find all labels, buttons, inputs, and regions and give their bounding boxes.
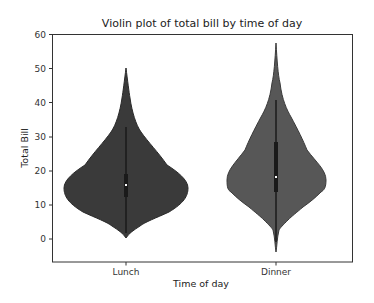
y-tick-label: 40 xyxy=(35,98,47,108)
y-tick-label: 10 xyxy=(35,200,47,210)
x-tick-label-dinner: Dinner xyxy=(261,267,291,277)
lunch-median xyxy=(125,184,127,186)
y-axis: 60 50 40 30 20 10 0 xyxy=(35,30,53,245)
y-tick-label: 50 xyxy=(35,64,47,74)
x-tick-label-lunch: Lunch xyxy=(113,267,140,277)
y-tick-label: 30 xyxy=(35,132,47,142)
y-tick-label: 0 xyxy=(40,234,46,244)
y-tick-label: 60 xyxy=(35,30,47,40)
violin-chart: Violin plot of total bill by time of day… xyxy=(0,0,374,303)
dinner-median xyxy=(275,176,277,178)
x-axis-label: Time of day xyxy=(172,278,229,289)
y-tick-label: 20 xyxy=(35,166,47,176)
dinner-box xyxy=(274,142,278,192)
y-axis-label: Total Bill xyxy=(19,128,30,169)
chart-title: Violin plot of total bill by time of day xyxy=(102,17,303,30)
x-axis: Lunch Dinner xyxy=(113,262,292,277)
